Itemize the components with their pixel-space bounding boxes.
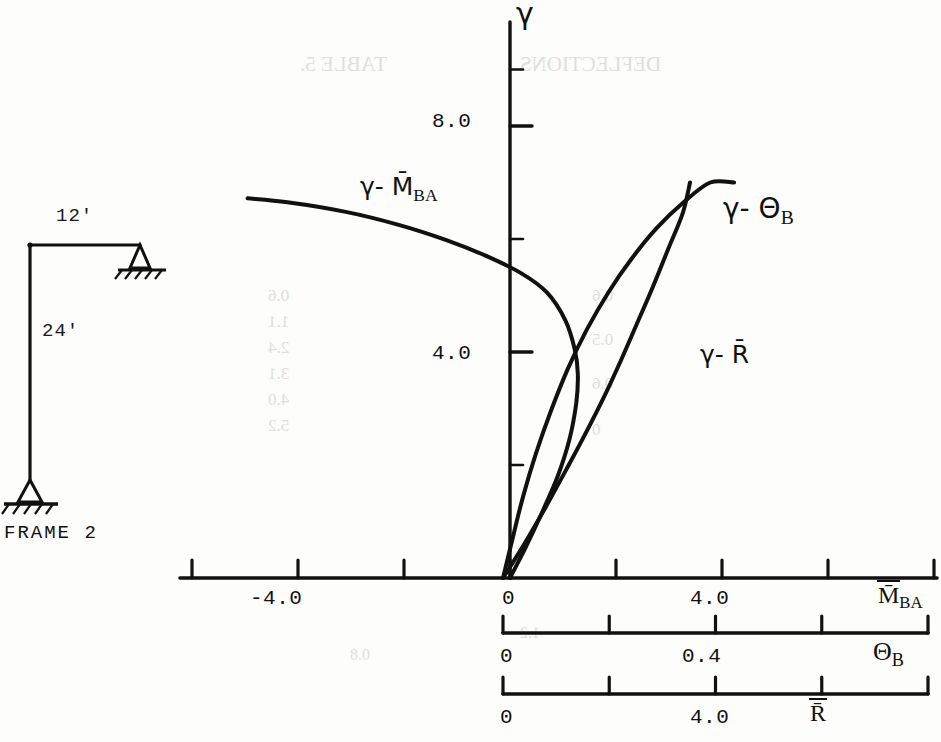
y-axis-label: γ (516, 0, 534, 31)
x1-tick-label-0: 0 (502, 587, 515, 610)
x2-tick-label-04: 0.4 (682, 645, 721, 668)
curve-label-r-text: γ- R̄ (700, 340, 749, 369)
x1-tick-label-4: 4.0 (690, 587, 729, 610)
x3-axis-label-text: R̄ (810, 700, 826, 727)
curve-label-theta-b-text: γ- Θ (723, 192, 781, 225)
x1-axis-label: M̄BA (878, 582, 923, 613)
x2-axis-label-text: Θ (873, 637, 892, 666)
curve-gamma-theta_B (503, 183, 690, 579)
curve-label-m-ba-text: γ- M̄ (360, 172, 413, 201)
x1-axis-label-text: M̄ (878, 582, 899, 609)
x1-axis-label-sub: BA (899, 593, 922, 612)
chart-area: γ 8.0 4.0 -4.0 0 4.0 M̄BA 0 0.4 ΘB 0 4.0… (0, 0, 941, 742)
x2-axis-label: ΘB (873, 637, 904, 671)
x3-axis-label: R̄ (810, 700, 826, 727)
x1-tick-label-neg4: -4.0 (250, 587, 302, 610)
y-tick-label-8: 8.0 (432, 110, 471, 133)
x3-tick-label-4: 4.0 (690, 706, 729, 729)
y-tick-label-4: 4.0 (432, 342, 471, 365)
x2-axis-label-sub: B (892, 650, 904, 670)
curve-label-theta-b-sub: B (781, 207, 794, 228)
curve-label-theta-b: γ- ΘB (723, 192, 794, 229)
figure-canvas: TABLE 5.DEFLECTIONS0.61.12.43.14.05.20.6… (0, 0, 941, 742)
curve-gamma-M_BA (248, 198, 578, 578)
x3-tick-label-0: 0 (500, 706, 513, 729)
curve-label-m-ba-sub: BA (413, 185, 437, 205)
curve-label-m-ba: γ- M̄BA (360, 172, 438, 206)
curve-label-r: γ- R̄ (700, 340, 749, 369)
x2-tick-label-0: 0 (500, 645, 513, 668)
